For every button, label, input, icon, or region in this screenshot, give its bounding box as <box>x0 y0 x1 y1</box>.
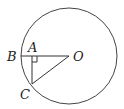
segment-co <box>32 56 69 84</box>
geometry-diagram: B A O C <box>0 0 124 109</box>
label-c: C <box>20 87 30 102</box>
label-b: B <box>6 49 17 64</box>
right-angle-marker <box>32 56 37 62</box>
label-o: O <box>73 49 84 64</box>
label-a: A <box>27 40 37 55</box>
